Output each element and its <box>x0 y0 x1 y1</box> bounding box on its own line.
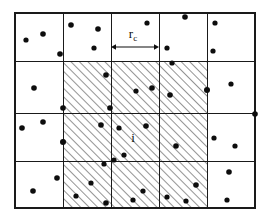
particle-dot <box>57 51 63 57</box>
hatched-cell <box>159 61 207 113</box>
particle-dot <box>193 182 199 188</box>
particle-dot <box>60 105 66 111</box>
particle-dot <box>111 157 116 162</box>
particle-dot <box>204 87 210 93</box>
particle-dot <box>173 143 179 149</box>
figure-canvas: rc i <box>0 0 268 219</box>
particle-dot <box>210 48 215 53</box>
particle-dot <box>183 198 188 203</box>
particle-dot <box>103 200 109 206</box>
particle-dot <box>167 92 173 98</box>
particle-dot <box>40 31 46 37</box>
particle-dot <box>133 88 138 93</box>
particle-dot <box>107 105 113 111</box>
particle-dot <box>40 119 46 125</box>
particle-dot <box>116 125 121 130</box>
particle-dot <box>19 125 25 131</box>
particle-dot <box>143 123 149 129</box>
particle-dot <box>149 85 155 91</box>
particle-dot <box>140 188 145 193</box>
particle-dot <box>88 180 93 185</box>
hatched-cell <box>63 161 111 208</box>
hatched-cell <box>159 113 207 161</box>
particle-dot <box>30 188 36 194</box>
particle-dot <box>60 139 66 145</box>
hatched-cell <box>159 161 207 208</box>
particle-dot <box>54 175 60 181</box>
particle-dot <box>169 60 174 65</box>
cutoff-radius-subscript: c <box>133 33 137 43</box>
particle-dot <box>91 45 96 50</box>
particle-dot <box>95 26 101 32</box>
particle-dot <box>130 197 135 202</box>
center-cell-label: i <box>131 130 135 145</box>
particle-dot <box>103 72 109 78</box>
particle-dot <box>228 81 233 86</box>
particle-dot <box>164 194 169 199</box>
particle-dot <box>226 169 232 175</box>
particle-dot <box>121 152 126 157</box>
hatched-region-layer <box>63 61 207 208</box>
particle-dot <box>212 20 217 25</box>
particle-dot <box>68 22 74 28</box>
particle-dot <box>31 85 37 91</box>
particle-dot <box>232 143 237 148</box>
particle-dot <box>144 20 149 25</box>
cell-list-figure: rc i <box>0 0 268 219</box>
hatched-cell <box>63 113 111 161</box>
hatched-cell <box>111 113 159 161</box>
particle-dot <box>73 193 78 198</box>
particle-dot <box>101 161 106 166</box>
particle-dot <box>182 14 188 20</box>
hatched-cell <box>63 61 111 113</box>
particle-dot <box>98 122 104 128</box>
particle-dot <box>211 135 216 140</box>
particle-dot <box>252 111 258 117</box>
particle-dot <box>23 37 28 42</box>
particle-dot <box>164 45 169 50</box>
particle-dot <box>224 197 229 202</box>
